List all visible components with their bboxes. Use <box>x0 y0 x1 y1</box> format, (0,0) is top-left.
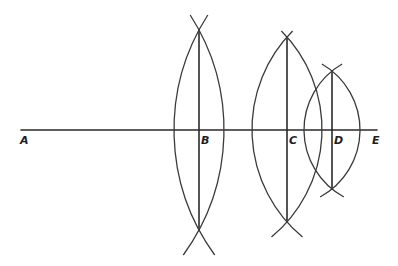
label-e: E <box>372 135 380 146</box>
label-b: B <box>201 135 209 146</box>
label-a: A <box>20 135 29 146</box>
construction-b <box>174 15 224 255</box>
label-d: D <box>334 135 343 146</box>
construction-c <box>252 31 322 237</box>
label-c: C <box>289 135 297 146</box>
construction-diagram <box>0 0 398 266</box>
